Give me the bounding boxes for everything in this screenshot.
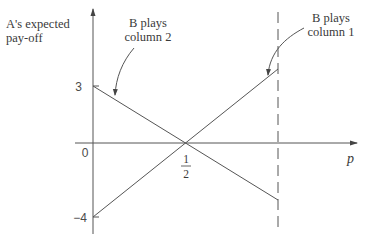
fraction-half-denominator: 2 — [183, 168, 189, 180]
tick-label-origin: 0 — [82, 146, 89, 160]
payoff-diagram: A's expected pay-off 3 0 −4 1 2 p B play… — [0, 0, 369, 247]
annotation-column-2-line2: column 2 — [125, 30, 172, 44]
tick-label-neg4: −4 — [73, 211, 87, 225]
x-axis-label: p — [346, 151, 354, 166]
annotation-column-1-line1: B plays — [312, 11, 350, 25]
arrow-column-2 — [115, 48, 134, 95]
y-axis-label-line2: pay-off — [6, 31, 43, 45]
y-axis-label-line1: A's expected — [6, 17, 70, 31]
arrow-column-1 — [268, 28, 304, 75]
annotation-column-2-line1: B plays — [129, 16, 167, 30]
fraction-half-numerator: 1 — [183, 153, 189, 165]
annotation-column-1-line2: column 1 — [308, 25, 355, 39]
tick-label-3: 3 — [75, 80, 82, 94]
